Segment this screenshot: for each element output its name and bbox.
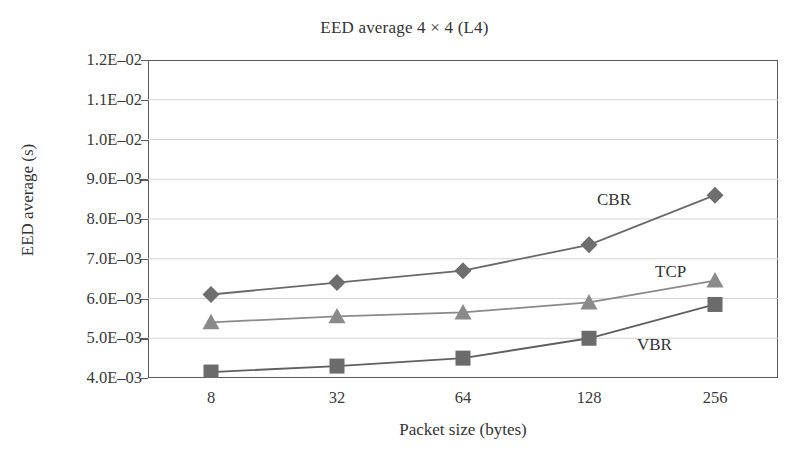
y-tick-mark bbox=[141, 219, 148, 220]
data-point-tcp-256 bbox=[707, 272, 724, 287]
x-tick-label: 256 bbox=[675, 388, 755, 408]
data-point-cbr-64 bbox=[455, 262, 472, 279]
y-tick-label: 1.2E–02 bbox=[58, 50, 142, 70]
data-point-vbr-32 bbox=[330, 359, 345, 374]
y-tick-label: 1.0E–02 bbox=[58, 130, 142, 150]
data-point-cbr-128 bbox=[581, 236, 598, 253]
data-point-cbr-32 bbox=[329, 274, 346, 291]
data-point-vbr-256 bbox=[708, 297, 723, 312]
series-label-vbr: VBR bbox=[637, 335, 672, 355]
y-tick-label: 1.1E–02 bbox=[58, 90, 142, 110]
y-tick-label: 4.0E–03 bbox=[58, 368, 142, 388]
plot-svg bbox=[148, 60, 778, 378]
y-tick-label: 6.0E–03 bbox=[58, 289, 142, 309]
y-tick-label: 7.0E–03 bbox=[58, 249, 142, 269]
data-point-vbr-8 bbox=[204, 365, 219, 378]
y-axis-tick-marks bbox=[148, 60, 149, 378]
x-tick-label: 64 bbox=[423, 388, 503, 408]
x-axis-tick-labels: 83264128256 bbox=[148, 388, 778, 414]
y-tick-mark bbox=[141, 140, 148, 141]
data-point-vbr-64 bbox=[456, 351, 471, 366]
data-point-cbr-8 bbox=[203, 286, 220, 303]
y-tick-label: 9.0E–03 bbox=[58, 169, 142, 189]
y-axis-title: EED average (s) bbox=[18, 110, 38, 290]
series-label-tcp: TCP bbox=[655, 262, 686, 282]
data-point-vbr-128 bbox=[582, 331, 597, 346]
y-tick-mark bbox=[141, 259, 148, 260]
series-label-cbr: CBR bbox=[597, 190, 631, 210]
y-tick-mark bbox=[141, 60, 148, 61]
y-tick-mark bbox=[141, 299, 148, 300]
y-tick-mark bbox=[141, 338, 148, 339]
series-line-cbr bbox=[211, 195, 715, 294]
y-tick-mark bbox=[141, 179, 148, 180]
y-tick-label: 8.0E–03 bbox=[58, 209, 142, 229]
y-axis-tick-labels: 4.0E–035.0E–036.0E–037.0E–038.0E–039.0E–… bbox=[56, 60, 142, 378]
y-tick-label: 5.0E–03 bbox=[58, 328, 142, 348]
x-axis-title: Packet size (bytes) bbox=[148, 420, 778, 440]
x-tick-label: 8 bbox=[171, 388, 251, 408]
y-tick-mark bbox=[141, 378, 148, 379]
x-tick-label: 32 bbox=[297, 388, 377, 408]
y-tick-mark bbox=[141, 100, 148, 101]
chart-title: EED average 4 × 4 (L4) bbox=[0, 18, 809, 38]
chart-figure: EED average 4 × 4 (L4) EED average (s) 4… bbox=[0, 0, 809, 457]
x-tick-label: 128 bbox=[549, 388, 629, 408]
data-point-cbr-256 bbox=[707, 187, 724, 204]
gridlines-group bbox=[148, 100, 778, 339]
